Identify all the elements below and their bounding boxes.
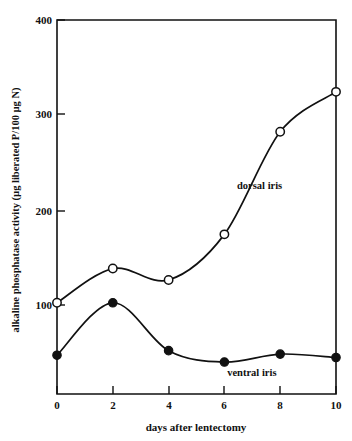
data-point-ventral-iris-day-10 (332, 353, 340, 361)
x-tick-label-0: 0 (54, 399, 60, 411)
x-tick-label-6: 6 (221, 399, 227, 411)
x-tick-label-4: 4 (166, 399, 172, 411)
x-tick-label-10: 10 (331, 399, 343, 411)
series-annotation-dorsal-iris: dorsal iris (237, 180, 282, 191)
y-tick-label-200: 200 (36, 205, 53, 217)
data-point-dorsal-iris-day-0 (53, 299, 61, 307)
data-point-ventral-iris-day-4 (164, 346, 172, 354)
y-tick-label-300: 300 (36, 108, 53, 120)
data-point-ventral-iris-day-0 (53, 351, 61, 359)
y-axis-title: alkaline phosphatase activity (µg libera… (10, 87, 22, 333)
x-tick-label-2: 2 (110, 399, 116, 411)
chart-figure: 400 300 200 100 0 2 4 6 8 10 days after … (0, 0, 352, 441)
y-tick-label-400: 400 (36, 14, 53, 26)
data-point-dorsal-iris-day-2 (109, 264, 117, 272)
x-axis-title: days after lentectomy (146, 421, 247, 433)
data-point-dorsal-iris-day-6 (220, 230, 228, 238)
data-point-ventral-iris-day-2 (109, 299, 117, 307)
data-point-dorsal-iris-day-10 (332, 88, 340, 96)
chart-background (0, 0, 352, 441)
data-point-dorsal-iris-day-8 (276, 128, 284, 136)
line-chart-svg: 400 300 200 100 0 2 4 6 8 10 days after … (0, 0, 352, 441)
x-tick-label-8: 8 (277, 399, 283, 411)
data-point-dorsal-iris-day-4 (164, 276, 172, 284)
data-point-ventral-iris-day-8 (276, 350, 284, 358)
series-annotation-ventral-iris: ventral iris (227, 367, 276, 378)
data-point-ventral-iris-day-6 (220, 358, 228, 366)
y-tick-label-100: 100 (36, 299, 53, 311)
